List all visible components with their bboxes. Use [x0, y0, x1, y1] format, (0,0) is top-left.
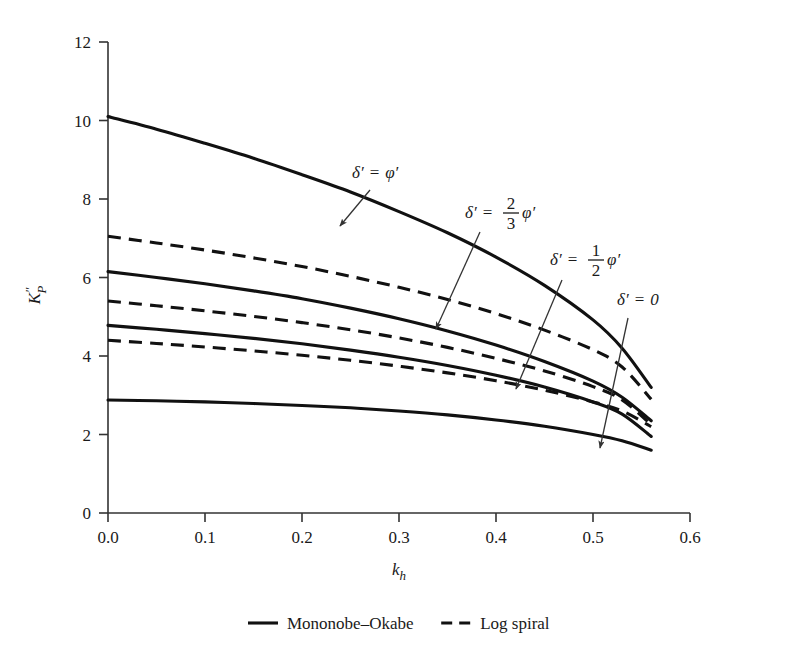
ann-delta-0-value: 0 [650, 290, 659, 309]
y-axis-tick-label: 12 [74, 33, 91, 52]
delta-symbol: δ′ [617, 290, 629, 309]
equals-symbol: = [568, 250, 578, 269]
equals-symbol: = [635, 290, 645, 309]
x-axis-tick-label: 0.6 [679, 528, 700, 547]
ann-delta-0: δ′=0 [600, 290, 659, 448]
legend-label-0: Mononobe–Okabe [287, 614, 414, 633]
y-axis-tick-label: 4 [83, 347, 92, 366]
delta-symbol: δ′ [550, 250, 562, 269]
ann-delta-phi-arrow [340, 190, 370, 226]
chart-legend: Mononobe–OkabeLog spiral [248, 614, 550, 633]
data-curve [108, 301, 651, 425]
ann-delta-1-2-phi-phi-symbol: φ′ [607, 250, 620, 269]
x-axis-tick-label: 0.3 [388, 528, 409, 547]
ann-delta-2-3-phi-arrow [436, 232, 480, 329]
delta-symbol: δ′ [352, 163, 364, 182]
y-axis-tick-label: 0 [83, 504, 92, 523]
equals-symbol: = [370, 163, 380, 182]
ann-delta-1-2-phi-denominator: 2 [592, 261, 601, 280]
data-curve [108, 272, 651, 421]
ann-delta-phi: δ′=φ′ [340, 163, 399, 226]
y-axis-title-text: K″P [22, 286, 49, 306]
delta-symbol: δ′ [465, 203, 477, 222]
x-axis-tick-label: 0.1 [194, 528, 215, 547]
data-curve [108, 400, 651, 450]
ann-delta-0-label: δ′=0 [617, 290, 659, 309]
x-axis-title-subscript: h [400, 568, 407, 583]
ann-delta-2-3-phi-phi-symbol: φ′ [522, 203, 535, 222]
ann-delta-2-3-phi-label: δ′= [465, 203, 492, 222]
data-curve [108, 325, 651, 436]
x-axis-tick-label: 0.0 [97, 528, 118, 547]
equals-symbol: = [483, 203, 493, 222]
x-axis-title: kh [392, 560, 406, 583]
y-axis-title-subscript: P [34, 286, 49, 295]
ann-delta-1-2-phi-numerator: 1 [592, 241, 601, 260]
y-axis-title: K″P [22, 286, 49, 306]
x-axis-tick-label: 0.2 [291, 528, 312, 547]
y-axis-tick-label: 2 [83, 426, 92, 445]
y-axis-tick-label: 10 [74, 112, 91, 131]
ann-delta-phi-value: φ′ [385, 163, 398, 182]
chart-figure: 0246810120.00.10.20.30.40.50.6K″Pkhδ′=φ′… [0, 0, 792, 667]
ann-delta-2-3-phi: δ′=23φ′ [436, 194, 535, 329]
ann-delta-1-2-phi-label: δ′= [550, 250, 577, 269]
y-axis-tick-label: 6 [83, 269, 92, 288]
ann-delta-2-3-phi-denominator: 3 [507, 214, 516, 233]
ann-delta-phi-label: δ′=φ′ [352, 163, 399, 182]
y-axis-tick-label: 8 [83, 190, 92, 209]
x-axis-tick-label: 0.5 [582, 528, 603, 547]
chart-canvas: 0246810120.00.10.20.30.40.50.6K″Pkhδ′=φ′… [0, 0, 792, 667]
legend-label-1: Log spiral [480, 614, 550, 633]
ann-delta-2-3-phi-numerator: 2 [507, 194, 516, 213]
x-axis-tick-label: 0.4 [485, 528, 507, 547]
